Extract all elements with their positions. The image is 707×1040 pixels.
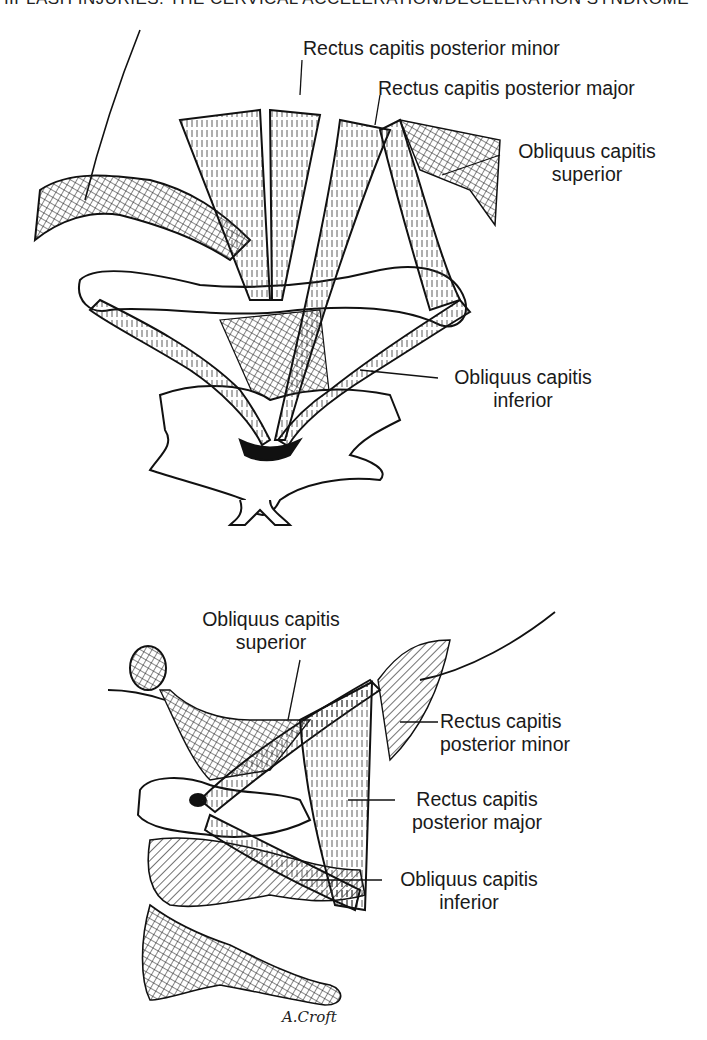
- label-line: superior: [502, 163, 672, 186]
- label-obliquus-capitis-inferior-top: Obliquus capitis inferior: [438, 366, 608, 412]
- label-line: inferior: [438, 389, 608, 412]
- label-line: Obliquus capitis: [186, 608, 356, 631]
- label-line: Obliquus capitis: [384, 868, 554, 891]
- label-line: Obliquus capitis: [502, 140, 672, 163]
- label-line: inferior: [384, 891, 554, 914]
- artist-signature: A.Croft: [282, 1008, 337, 1026]
- label-rectus-capitis-posterior-major-top: Rectus capitis posterior major: [378, 77, 635, 100]
- label-line: Rectus capitis: [392, 788, 562, 811]
- label-line: Obliquus capitis: [438, 366, 608, 389]
- label-rectus-capitis-posterior-major-bottom: Rectus capitis posterior major: [392, 788, 562, 834]
- label-obliquus-capitis-inferior-bottom: Obliquus capitis inferior: [384, 868, 554, 914]
- label-rectus-capitis-posterior-minor-top: Rectus capitis posterior minor: [303, 37, 560, 60]
- top-figure: [35, 30, 500, 525]
- label-line: posterior major: [392, 811, 562, 834]
- label-obliquus-capitis-superior-bottom: Obliquus capitis superior: [186, 608, 356, 654]
- label-line: superior: [186, 631, 356, 654]
- label-rectus-capitis-posterior-minor-bottom: Rectus capitis posterior minor: [440, 710, 570, 756]
- label-line: Rectus capitis: [440, 710, 570, 733]
- label-obliquus-capitis-superior-top: Obliquus capitis superior: [502, 140, 672, 186]
- label-line: posterior minor: [440, 733, 570, 756]
